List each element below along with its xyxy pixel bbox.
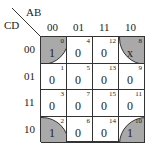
cell-value: 0 [101,46,107,61]
cell-value: 0 [75,73,81,88]
cell-index: 4 [87,37,91,45]
cell-index: 3 [61,90,65,98]
row-label: 10 [24,123,35,135]
cell-index: 6 [87,117,91,125]
col-var-label: AB [26,6,41,18]
kmap-cell: 09 [119,64,145,91]
kmap-grid: 1004012x801050130903070150111206014110 [40,36,145,142]
cell-index: 10 [135,117,142,125]
row-label: 01 [24,70,35,82]
cell-index: 15 [109,90,116,98]
cell-index: 12 [109,37,116,45]
cell-value: 1 [127,126,133,141]
cell-value: x [127,46,133,61]
cell-value: 0 [49,99,55,114]
kmap-cell: 013 [93,64,119,91]
cell-value: 0 [127,73,133,88]
kmap-cell: 011 [119,90,145,117]
row-var-label: CD [4,19,19,31]
kmap-cell: 110 [119,117,145,144]
row-label: 11 [24,96,35,108]
cell-index: 13 [109,64,116,72]
kmap-cell: 05 [67,64,93,91]
kmap-cell: 10 [41,37,67,64]
kmap-cell: 01 [41,64,67,91]
col-label: 00 [47,21,58,33]
cell-index: 9 [139,64,143,72]
row-label: 00 [24,43,35,55]
cell-value: 0 [75,99,81,114]
kmap-cell: 04 [67,37,93,64]
cell-value: 1 [49,126,55,141]
kmap-cell: 07 [67,90,93,117]
col-label: 11 [99,21,110,33]
cell-index: 1 [61,64,65,72]
kmap-cell: 014 [93,117,119,144]
cell-value: 0 [127,99,133,114]
cell-index: 14 [109,117,116,125]
cell-index: 2 [61,117,65,125]
cell-value: 0 [101,99,107,114]
cell-value: 0 [101,126,107,141]
kmap-cell: 015 [93,90,119,117]
cell-value: 0 [49,73,55,88]
kmap-cell: x8 [119,37,145,64]
kmap-cell: 03 [41,90,67,117]
cell-index: 5 [87,64,91,72]
col-label: 01 [73,21,84,33]
col-label: 10 [125,21,136,33]
cell-index: 0 [61,37,65,45]
kmap-cell: 06 [67,117,93,144]
cell-value: 0 [75,46,81,61]
cell-index: 11 [135,90,142,98]
cell-value: 1 [49,46,55,61]
kmap-cell: 12 [41,117,67,144]
cell-index: 7 [87,90,91,98]
cell-value: 0 [75,126,81,141]
kmap-cell: 012 [93,37,119,64]
cell-value: 0 [101,73,107,88]
cell-index: 8 [139,37,143,45]
